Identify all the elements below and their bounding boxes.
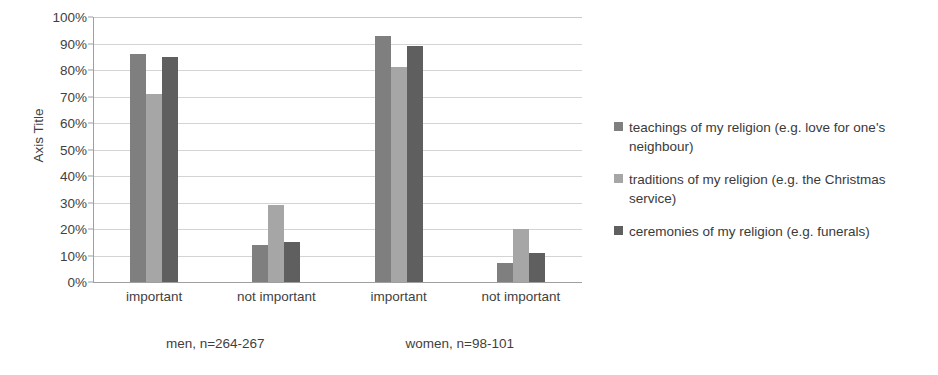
- y-axis-tick-label: 10%: [41, 248, 87, 263]
- bar: [407, 46, 423, 282]
- legend-swatch-icon: [614, 122, 623, 131]
- y-axis-tick-label: 30%: [41, 195, 87, 210]
- legend-item[interactable]: traditions of my religion (e.g. the Chri…: [614, 170, 934, 208]
- bar: [146, 94, 162, 282]
- bar: [391, 67, 407, 282]
- legend-swatch-icon: [614, 226, 623, 235]
- x-axis-line: [93, 282, 582, 283]
- y-axis-tick-label: 0%: [41, 275, 87, 290]
- group-label: women, n=98-101: [350, 336, 570, 351]
- bar: [252, 245, 268, 282]
- bar: [130, 54, 146, 282]
- legend-item[interactable]: teachings of my religion (e.g. love for …: [614, 118, 934, 156]
- category-axis-labels: importantnot importantimportantnot impor…: [93, 287, 582, 333]
- chart-legend: teachings of my religion (e.g. love for …: [614, 118, 934, 255]
- group-label: men, n=264-267: [105, 336, 325, 351]
- y-axis-tick-label: 80%: [41, 63, 87, 78]
- bar: [375, 36, 391, 282]
- bar: [268, 205, 284, 282]
- bars-layer: [93, 17, 582, 282]
- y-axis-tick-label: 60%: [41, 116, 87, 131]
- bar: [284, 242, 300, 282]
- category-label: not important: [475, 287, 567, 306]
- y-axis-tick-label: 40%: [41, 169, 87, 184]
- category-label: not important: [230, 287, 322, 306]
- y-axis-tick-label: 70%: [41, 89, 87, 104]
- y-axis-tick-label: 90%: [41, 36, 87, 51]
- plot-area: 0%10%20%30%40%50%60%70%80%90%100%: [93, 17, 582, 282]
- y-axis-tick-label: 50%: [41, 142, 87, 157]
- legend-label: traditions of my religion (e.g. the Chri…: [629, 170, 907, 208]
- bar: [529, 253, 545, 282]
- bar: [497, 263, 513, 282]
- legend-label: ceremonies of my religion (e.g. funerals…: [629, 222, 870, 241]
- category-label: important: [353, 287, 445, 306]
- legend-swatch-icon: [614, 174, 623, 183]
- bar-chart-figure: Axis Title 0%10%20%30%40%50%60%70%80%90%…: [0, 0, 938, 375]
- group-axis-labels: men, n=264-267women, n=98-101: [93, 336, 582, 364]
- legend-label: teachings of my religion (e.g. love for …: [629, 118, 907, 156]
- bar: [513, 229, 529, 282]
- y-axis-tick-label: 100%: [41, 10, 87, 25]
- y-axis-tick-label: 20%: [41, 222, 87, 237]
- category-label: important: [108, 287, 200, 306]
- bar: [162, 57, 178, 282]
- legend-item[interactable]: ceremonies of my religion (e.g. funerals…: [614, 222, 934, 241]
